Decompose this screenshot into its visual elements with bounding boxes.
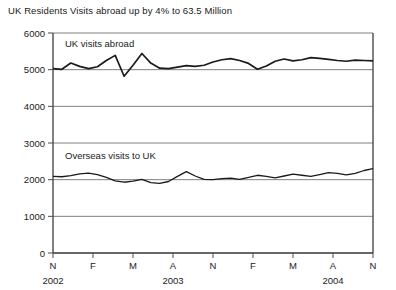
x-tick-label: A [330, 260, 337, 271]
y-tick-label: 6000 [24, 28, 45, 39]
x-tick-label: M [129, 260, 137, 271]
x-axis-year-label: 2004 [322, 275, 343, 286]
x-tick-label: M [289, 260, 297, 271]
x-tick-label: N [370, 260, 377, 271]
x-axis-tick-labels: NFMANFMAN [50, 260, 377, 271]
x-tick-label: F [90, 260, 96, 271]
y-tick-label: 0 [40, 248, 45, 259]
series-label-1: UK visits abroad [65, 38, 134, 49]
x-axis-year-label: 2002 [42, 275, 63, 286]
chart-plot-svg: 0100020003000400050006000 NFMANFMAN 2002… [0, 0, 396, 290]
chart-container: UK Residents Visits abroad up by 4% to 6… [0, 0, 396, 290]
x-tick-label: A [170, 260, 177, 271]
series-line-2 [53, 169, 373, 184]
series-lines [53, 54, 373, 184]
y-axis-tick-labels: 0100020003000400050006000 [24, 28, 45, 259]
y-tick-label: 5000 [24, 64, 45, 75]
y-tick-label: 1000 [24, 211, 45, 222]
x-tick-label: N [210, 260, 217, 271]
y-axis-ticks [48, 33, 53, 253]
grid-lines [53, 33, 373, 253]
x-tick-label: N [50, 260, 57, 271]
x-tick-label: F [250, 260, 256, 271]
x-axis-year-labels: 200220032004 [42, 275, 343, 286]
y-tick-label: 2000 [24, 174, 45, 185]
series-inline-labels: UK visits abroadOverseas visits to UK [65, 38, 156, 161]
y-tick-label: 4000 [24, 101, 45, 112]
series-label-2: Overseas visits to UK [65, 150, 156, 161]
y-tick-label: 3000 [24, 138, 45, 149]
x-axis-ticks [53, 253, 373, 258]
series-line-1 [53, 54, 373, 77]
x-axis-year-label: 2003 [162, 275, 183, 286]
